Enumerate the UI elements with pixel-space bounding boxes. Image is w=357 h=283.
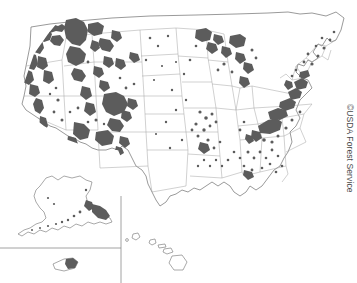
copyright-credit: ©USDA Forest Service (344, 104, 356, 190)
us-distribution-map (0, 0, 357, 283)
hawaii-molokai (158, 244, 166, 248)
distribution-map-figure: ©USDA Forest Service (0, 0, 357, 283)
hawaii-niihau (126, 239, 129, 242)
